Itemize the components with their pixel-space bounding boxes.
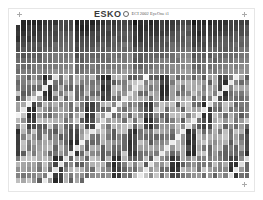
color-patch [208,162,212,167]
color-patch [154,85,158,90]
color-patch [59,151,63,156]
color-patch [218,47,222,52]
color-patch [245,80,249,85]
color-patch [32,129,36,134]
color-patch [43,167,47,172]
color-patch [202,80,206,85]
color-patch [112,31,116,36]
color-patch [144,80,148,85]
color-patch [138,58,142,63]
color-patch [96,53,100,58]
color-patch [122,42,126,47]
color-patch [64,96,68,101]
color-patch [117,96,121,101]
color-patch [48,91,52,96]
color-patch [21,75,25,80]
color-patch [133,85,137,90]
color-patch [154,129,158,134]
color-patch [186,167,190,172]
color-patch [106,53,110,58]
color-patch [229,118,233,123]
color-patch [117,162,121,167]
color-patch [112,42,116,47]
color-patch [21,173,25,178]
color-patch [32,25,36,30]
color-patch [122,64,126,69]
color-patch [117,91,121,96]
color-patch [21,156,25,161]
color-patch [59,173,63,178]
color-patch [186,36,190,41]
color-patch [192,107,196,112]
color-patch [21,178,25,183]
color-patch [229,124,233,129]
color-patch [32,118,36,123]
color-patch [96,80,100,85]
color-patch [234,107,238,112]
color-patch [186,31,190,36]
color-patch [176,140,180,145]
color-patch [170,162,174,167]
color-patch [208,58,212,63]
color-patch [213,145,217,150]
color-patch [234,134,238,139]
color-patch [186,47,190,52]
color-patch [239,69,243,74]
color-patch [85,140,89,145]
color-patch [53,129,57,134]
color-patch [186,91,190,96]
color-patch [218,113,222,118]
color-patch [176,25,180,30]
color-patch [165,134,169,139]
color-patch [69,118,73,123]
color-patch [239,124,243,129]
color-patch [96,25,100,30]
color-patch [234,162,238,167]
color-patch [229,64,233,69]
color-patch [208,102,212,107]
color-patch [101,102,105,107]
color-patch [37,31,41,36]
color-patch [245,151,249,156]
color-patch [96,102,100,107]
color-patch [16,58,20,63]
color-patch [75,75,79,80]
color-patch [149,118,153,123]
color-patch [176,53,180,58]
color-patch [165,80,169,85]
color-patch [149,42,153,47]
color-patch [117,156,121,161]
color-patch [32,113,36,118]
color-patch [144,20,148,25]
color-patch [239,53,243,58]
color-patch [202,20,206,25]
color-patch [53,75,57,80]
color-patch [181,129,185,134]
color-patch [43,20,47,25]
color-patch [170,140,174,145]
color-patch [245,167,249,172]
color-patch [32,53,36,58]
color-patch [59,96,63,101]
color-patch [122,162,126,167]
color-patch [75,36,79,41]
color-patch [213,75,217,80]
color-patch [53,64,57,69]
color-patch [165,42,169,47]
color-patch [234,20,238,25]
color-patch [186,129,190,134]
color-patch [181,75,185,80]
color-patch [64,178,68,183]
color-patch [192,134,196,139]
color-patch [128,134,132,139]
color-patch [48,129,52,134]
color-patch [90,20,94,25]
color-patch [176,156,180,161]
color-patch [165,107,169,112]
color-patch [112,124,116,129]
color-patch [37,129,41,134]
color-patch [53,69,57,74]
color-patch [53,42,57,47]
color-patch [112,25,116,30]
color-patch [43,129,47,134]
